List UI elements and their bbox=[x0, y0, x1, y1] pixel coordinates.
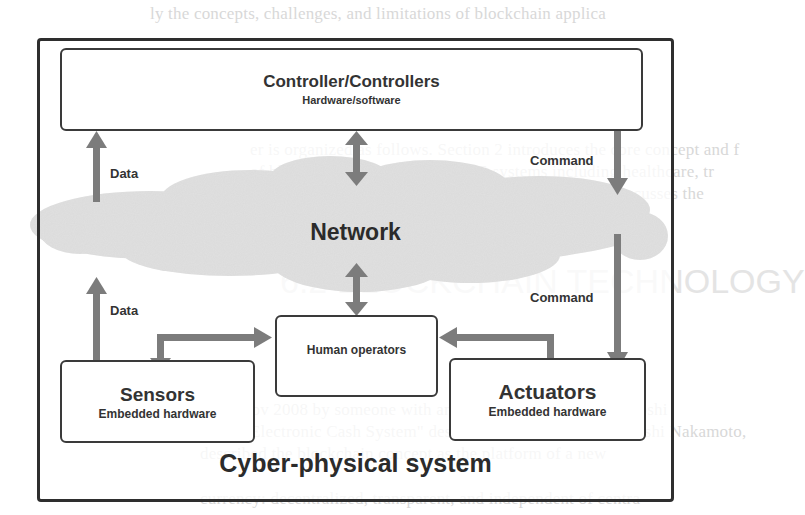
human-operators-title: Human operators bbox=[277, 343, 436, 357]
sensors-subtitle: Embedded hardware bbox=[62, 407, 253, 421]
controller-box: Controller/Controllers Hardware/software bbox=[60, 48, 643, 131]
cyber-physical-system-title: Cyber-physical system bbox=[0, 449, 711, 478]
controller-subtitle: Hardware/software bbox=[62, 94, 641, 106]
data-label-lower: Data bbox=[110, 303, 138, 318]
human-operators-box: Human operators bbox=[275, 315, 438, 397]
actuators-subtitle: Embedded hardware bbox=[451, 405, 644, 419]
actuators-title: Actuators bbox=[451, 380, 644, 404]
data-label-upper: Data bbox=[110, 166, 138, 181]
command-label-lower: Command bbox=[530, 290, 594, 305]
command-label-upper: Command bbox=[530, 153, 594, 168]
controller-title: Controller/Controllers bbox=[62, 72, 641, 92]
sensors-box: Sensors Embedded hardware bbox=[60, 360, 255, 443]
actuators-box: Actuators Embedded hardware bbox=[449, 358, 646, 441]
sensors-title: Sensors bbox=[62, 384, 253, 406]
network-label: Network bbox=[0, 219, 711, 246]
